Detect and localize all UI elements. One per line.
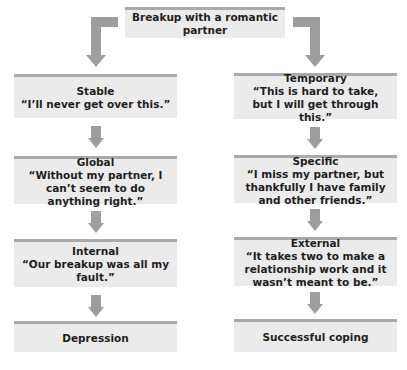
node-quote: “I miss my partner, but thankfully I hav… bbox=[238, 168, 393, 207]
node-title: Global bbox=[77, 156, 115, 169]
outcome-label: Successful coping bbox=[263, 331, 369, 344]
root-label: Breakup with a romantic partner bbox=[125, 11, 285, 37]
node-title: Temporary bbox=[284, 72, 347, 85]
elbow-arrow-right-icon bbox=[291, 17, 325, 67]
outcome-label: Depression bbox=[62, 332, 128, 345]
node-quote: “It takes two to make a relationship wor… bbox=[237, 250, 394, 289]
node-external: External “It takes two to make a relatio… bbox=[234, 237, 397, 286]
node-title: Specific bbox=[292, 155, 338, 168]
down-arrow-icon bbox=[88, 295, 104, 317]
node-quote: “This is hard to take, but I will get th… bbox=[244, 85, 387, 124]
root-node: Breakup with a romantic partner bbox=[125, 7, 285, 38]
down-arrow-icon bbox=[307, 209, 323, 231]
node-global: Global “Without my partner, I can’t seem… bbox=[14, 156, 177, 204]
node-specific: Specific “I miss my partner, but thankfu… bbox=[234, 155, 397, 203]
outcome-successful-coping: Successful coping bbox=[234, 319, 397, 352]
node-quote: “Without my partner, I can’t seem to do … bbox=[22, 169, 169, 208]
outcome-depression: Depression bbox=[14, 321, 177, 352]
node-temporary: Temporary “This is hard to take, but I w… bbox=[234, 73, 397, 119]
down-arrow-icon bbox=[88, 211, 104, 233]
node-stable: Stable “I’ll never get over this.” bbox=[14, 74, 177, 118]
node-quote: “I’ll never get over this.” bbox=[21, 98, 171, 111]
node-internal: Internal “Our breakup was all my fault.” bbox=[14, 239, 177, 287]
node-quote: “Our breakup was all my fault.” bbox=[14, 258, 177, 284]
node-title: External bbox=[291, 237, 340, 250]
node-title: Internal bbox=[72, 245, 119, 258]
down-arrow-icon bbox=[88, 126, 104, 148]
down-arrow-icon bbox=[307, 292, 323, 314]
down-arrow-icon bbox=[307, 127, 323, 149]
elbow-arrow-left-icon bbox=[86, 17, 120, 67]
node-title: Stable bbox=[77, 85, 115, 98]
